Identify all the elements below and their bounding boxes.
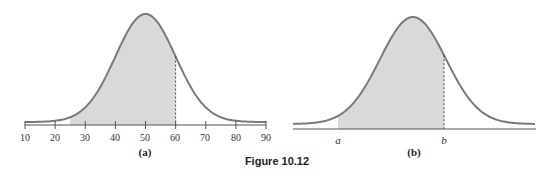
panel-a-tick-label: 30 bbox=[80, 132, 90, 143]
panel-a-tick-label: 20 bbox=[50, 132, 60, 143]
panel-a-chart: 10 20 30 40 50 60 70 80 90 (a) bbox=[20, 14, 271, 159]
panel-b-shaded-area bbox=[338, 17, 444, 129]
panel-a-tick-label: 50 bbox=[140, 132, 150, 143]
panel-b-tick-label-b: b bbox=[441, 134, 447, 146]
panel-a-tick-label: 40 bbox=[110, 132, 120, 143]
panel-a-tick-label: 70 bbox=[200, 132, 210, 143]
panel-b-tick-label-a: a bbox=[335, 134, 341, 146]
panel-b-chart: a b (b) bbox=[293, 17, 536, 159]
panel-a-tick-label: 80 bbox=[231, 132, 241, 143]
figure-canvas: 10 20 30 40 50 60 70 80 90 (a) a b (b) bbox=[0, 0, 554, 178]
panel-a-tick-label: 60 bbox=[170, 132, 180, 143]
panel-a-tick-label: 90 bbox=[261, 132, 271, 143]
panel-a-tick-label: 10 bbox=[20, 132, 30, 143]
panel-a-shaded-area bbox=[70, 14, 175, 125]
figure-caption: Figure 10.12 bbox=[0, 155, 554, 167]
